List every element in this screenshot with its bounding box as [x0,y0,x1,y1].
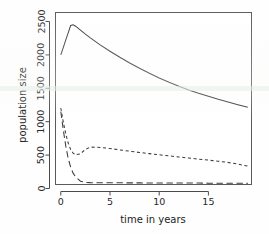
y-tick-label: 2000 [36,43,47,67]
x-axis-ticks [61,192,209,196]
y-axis-tick-labels: 0 500 1000 1500 2000 2500 [36,9,47,191]
x-tick-label: 5 [107,196,113,207]
y-tick-label: 500 [36,146,47,164]
y-axis-title: population size [17,67,28,143]
x-tick-label: 15 [202,196,214,207]
x-tick-label: 10 [153,196,165,207]
y-tick-label: 1500 [36,76,47,100]
x-axis-title: time in years [120,214,186,225]
y-tick-label: 2500 [36,9,47,33]
y-tick-label: 1000 [36,110,47,134]
chart-figure: 0 500 1000 1500 2000 2500 population siz… [0,0,269,234]
y-tick-label: 0 [36,185,47,191]
x-tick-label: 0 [58,196,64,207]
plot-panel [55,12,252,185]
population-line-chart: 0 500 1000 1500 2000 2500 population siz… [0,0,269,234]
x-axis-tick-labels: 0 5 10 15 [58,196,215,207]
